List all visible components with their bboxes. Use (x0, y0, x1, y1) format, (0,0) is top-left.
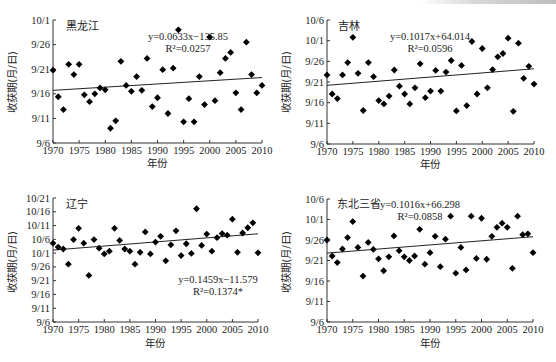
data-point (484, 84, 491, 91)
data-point (123, 82, 130, 89)
x-axis-title: 年份 (147, 157, 168, 169)
data-point (463, 267, 470, 274)
y-tick-label: 10/6 (305, 15, 324, 26)
regression-equation: y=0.1017x+64.014 (390, 31, 471, 42)
y-tick-label: 9/21 (305, 77, 324, 88)
y-tick-label: 9/26 (305, 56, 324, 67)
regression-equation: y=0.1016x+66.298 (380, 199, 460, 210)
data-point (447, 213, 454, 220)
data-point (91, 236, 98, 243)
data-point (165, 110, 172, 117)
data-point (149, 103, 156, 110)
data-point (144, 55, 151, 62)
x-tick-label: 1975 (68, 324, 89, 335)
y-tick-label: 10/11 (26, 220, 50, 231)
data-point (212, 97, 219, 104)
data-point (458, 244, 465, 251)
y-tick-label: 9/11 (306, 118, 324, 129)
data-point (494, 224, 501, 231)
data-point (70, 236, 77, 243)
data-point (198, 242, 205, 249)
data-point (478, 215, 485, 222)
x-tick-label: 1980 (95, 145, 116, 156)
data-point (483, 256, 490, 263)
y-tick-label: 9/26 (31, 261, 50, 272)
data-point (222, 55, 229, 62)
data-point (324, 237, 331, 244)
data-point (65, 61, 72, 68)
data-point (370, 73, 377, 80)
data-point (349, 218, 356, 225)
data-point (453, 108, 460, 115)
data-point (355, 244, 362, 251)
panel-northeast-three-provinces: 东北三省 y=0.1016x+66.298 R²=0.0858 年份 收获期(月… (280, 194, 544, 350)
x-axis-title: 年份 (420, 158, 441, 170)
panel-title: 东北三省 (337, 198, 381, 211)
y-tick-label: 10/21 (26, 193, 50, 204)
data-point (375, 97, 382, 104)
x-tick-label: 2005 (222, 324, 243, 335)
y-tick-label: 10/1 (31, 248, 50, 259)
data-point (380, 267, 387, 274)
data-point (329, 253, 336, 260)
data-point (417, 60, 424, 67)
panel-title: 辽宁 (66, 197, 88, 211)
data-point (107, 125, 114, 132)
data-point (224, 232, 231, 239)
data-point (191, 118, 198, 125)
y-tick-label: 9/21 (31, 64, 50, 75)
data-point (167, 241, 174, 248)
data-point (71, 71, 78, 78)
y-tick-label: 9/26 (305, 235, 324, 246)
x-axis-title: 年份 (145, 337, 166, 349)
x-tick-label: 2010 (523, 324, 544, 335)
data-point (365, 59, 372, 66)
data-point (243, 39, 250, 46)
x-tick-label: 1980 (94, 324, 115, 335)
data-point (515, 40, 522, 47)
y-tick-label: 9/16 (305, 276, 324, 287)
data-point (132, 261, 139, 268)
data-point (112, 117, 119, 124)
data-point (437, 88, 444, 95)
data-point (391, 233, 398, 240)
data-point (458, 62, 465, 69)
x-tick-label: 1985 (394, 324, 415, 335)
data-point (411, 253, 418, 260)
x-tick-label: 1995 (171, 324, 192, 335)
data-point (128, 88, 135, 95)
y-tick-label: 9/26 (31, 39, 50, 50)
data-point (196, 73, 203, 80)
y-tick-label: 9/21 (305, 255, 324, 266)
data-point (217, 69, 224, 76)
data-point (448, 57, 455, 64)
x-tick-label: 1990 (420, 146, 441, 157)
x-tick-label: 1985 (394, 146, 415, 157)
x-tick-label: 1970 (43, 145, 64, 156)
data-point (344, 234, 351, 241)
data-point (154, 94, 161, 101)
data-point (185, 95, 192, 102)
data-point (253, 89, 260, 96)
data-point (504, 224, 511, 231)
y-tick-label: 9/11 (32, 113, 50, 124)
data-point (86, 98, 93, 105)
data-point (50, 67, 57, 74)
data-point (133, 73, 140, 80)
data-point (173, 227, 180, 234)
data-point (524, 230, 531, 237)
data-point (227, 49, 234, 56)
data-point (360, 107, 367, 114)
data-point (530, 249, 537, 256)
data-point (355, 70, 362, 77)
x-tick-label: 1990 (145, 324, 166, 335)
data-point (494, 53, 501, 60)
data-point (396, 83, 403, 90)
data-point (473, 255, 480, 262)
data-point (248, 71, 255, 78)
data-point (370, 246, 377, 253)
data-point (137, 249, 144, 256)
x-tick-label: 1975 (69, 145, 90, 156)
data-point (381, 101, 388, 108)
data-point (385, 253, 392, 260)
